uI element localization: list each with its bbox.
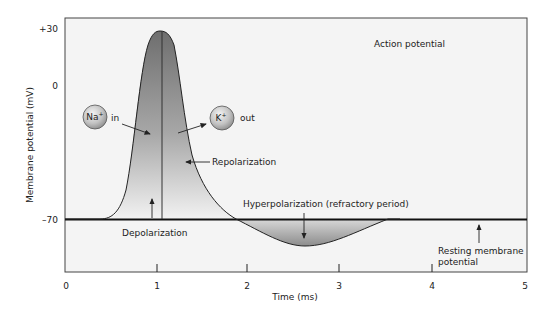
resting-potential-label-line2: potential xyxy=(438,257,478,267)
x-tick-2: 2 xyxy=(244,281,250,291)
potassium-direction: out xyxy=(240,113,255,123)
hyperpolarization-label: Hyperpolarization (refractory period) xyxy=(243,199,409,209)
resting-potential-label-line1: Resting membrane xyxy=(438,246,524,256)
repolarization-label: Repolarization xyxy=(212,157,276,167)
y-axis-label: Membrane potential (mV) xyxy=(25,87,35,203)
depolarization-label: Depolarization xyxy=(122,228,187,238)
x-tick-1: 1 xyxy=(154,281,160,291)
x-tick-0: 0 xyxy=(63,281,69,291)
action-potential-diagram: 0 1 2 3 4 5 +30 0 –70 Time (ms) Membrane… xyxy=(0,0,555,318)
x-axis-label: Time (ms) xyxy=(271,292,317,302)
y-tick-plus30: +30 xyxy=(39,24,58,34)
x-tick-4: 4 xyxy=(429,281,435,291)
y-tick-minus70: –70 xyxy=(42,215,58,225)
y-tick-0: 0 xyxy=(52,81,58,91)
sodium-direction: in xyxy=(111,113,119,123)
diagram-title: Action potential xyxy=(374,39,445,49)
potassium-ion-icon xyxy=(210,106,234,130)
x-tick-5: 5 xyxy=(522,281,528,291)
x-tick-3: 3 xyxy=(336,281,342,291)
